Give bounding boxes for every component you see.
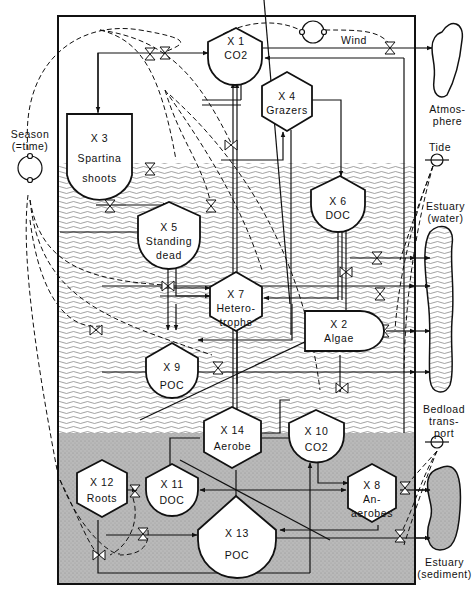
- season-label: Season (=time): [4, 128, 56, 152]
- node-x9-label: X 9 POC: [146, 358, 198, 394]
- node-x10-label: X 10 CO2: [289, 423, 344, 455]
- node-x13-label: X 13 POC: [198, 522, 276, 566]
- tide-source: [425, 154, 449, 166]
- estuary-sediment-label: Estuary (sediment): [414, 556, 475, 580]
- wind-source: [300, 21, 327, 43]
- node-x7-label: X 7 Hetero- trophs: [210, 287, 262, 329]
- node-x8-label: X 8 An- aerobes: [348, 478, 396, 520]
- node-x1-label: X 1 CO2: [212, 34, 260, 62]
- node-x3-label: X 3 Spartina shoots: [67, 128, 132, 188]
- atmosphere-sink: [432, 24, 462, 97]
- node-x11-label: X 11 DOC: [146, 476, 198, 508]
- atmosphere-label: Atmos- phere: [420, 103, 475, 127]
- wind-label: Wind: [334, 34, 374, 46]
- node-x6-label: X 6 DOC: [311, 194, 365, 222]
- season-source: [18, 154, 42, 183]
- tide-label: Tide: [420, 141, 460, 153]
- node-x2-label: X 2 Algae: [305, 317, 373, 345]
- node-x5-label: X 5 Standing dead: [138, 220, 200, 262]
- estuary-water-label: Estuary (water): [416, 200, 475, 224]
- node-x12-label: X 12 Roots: [77, 474, 127, 506]
- bedload-label: Bedload trans- port: [415, 403, 473, 439]
- node-x4-label: X 4 Grazers: [262, 89, 312, 117]
- node-x14-label: X 14 Aerobe: [204, 422, 261, 454]
- estuary-water-sink: [425, 226, 453, 392]
- estuary-sediment-sink: [427, 466, 460, 550]
